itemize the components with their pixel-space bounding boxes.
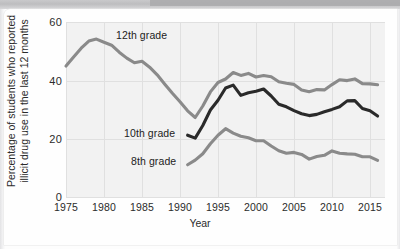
series-lines — [0, 0, 400, 249]
series-label-10th-grade: 10th grade — [124, 127, 175, 139]
series-label-8th-grade: 8th grade — [131, 155, 176, 167]
figure-canvas: 60 40 20 0 1975 1980 1985 1990 1995 2000… — [0, 0, 400, 249]
series-line-8th-grade — [188, 129, 378, 165]
series-label-12th-grade: 12th grade — [116, 29, 167, 41]
series-line-12th-grade — [66, 39, 378, 117]
series-line-10th-grade — [188, 85, 378, 138]
